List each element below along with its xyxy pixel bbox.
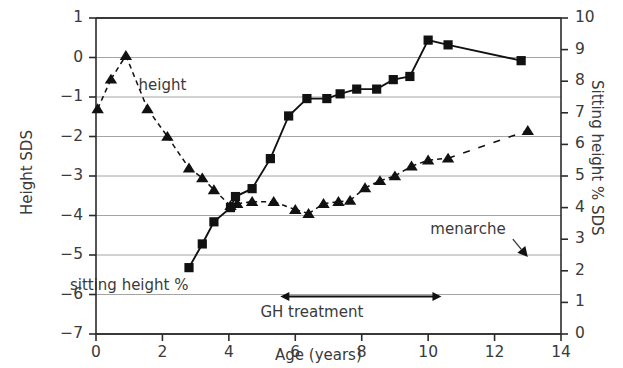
data-point-square <box>405 72 414 81</box>
data-point-square <box>184 263 193 272</box>
data-point-triangle <box>359 182 371 192</box>
data-point-triangle <box>344 195 356 205</box>
data-point-square <box>336 89 345 98</box>
data-point-square <box>389 75 398 84</box>
data-point-square <box>302 94 311 103</box>
data-point-triangle <box>289 204 301 214</box>
series-line-segment <box>126 56 148 109</box>
data-point-square <box>517 56 526 65</box>
data-point-triangle <box>91 103 103 113</box>
data-point-square <box>372 85 381 94</box>
data-point-square <box>226 203 235 212</box>
data-point-triangle <box>389 170 401 180</box>
data-point-square <box>248 184 257 193</box>
data-point-square <box>424 36 433 45</box>
data-point-triangle <box>522 125 534 135</box>
series-line-segment <box>448 131 528 159</box>
data-point-triangle <box>405 161 417 171</box>
data-point-triangle <box>141 103 153 113</box>
series-line-segment <box>98 79 111 109</box>
data-point-square <box>198 239 207 248</box>
data-point-square <box>322 94 331 103</box>
series-line <box>189 40 521 268</box>
data-point-triangle <box>267 196 279 206</box>
arrow-head <box>280 292 289 301</box>
arrow-head <box>432 292 441 301</box>
data-point-triangle <box>183 163 195 173</box>
plot-canvas <box>0 0 623 368</box>
data-point-triangle <box>105 74 117 84</box>
data-point-square <box>231 192 240 201</box>
data-point-square <box>266 154 275 163</box>
data-point-triangle <box>161 131 173 141</box>
data-point-square <box>284 111 293 120</box>
data-point-triangle <box>442 153 454 163</box>
data-point-square <box>352 85 361 94</box>
menarche-pointer-arrow <box>513 239 522 249</box>
data-point-triangle <box>120 50 132 60</box>
series-line-segment <box>167 137 189 169</box>
chart-figure: Height SDS Sitting height % SDS Age (yea… <box>0 0 623 368</box>
data-point-square <box>443 40 452 49</box>
data-point-square <box>209 217 218 226</box>
